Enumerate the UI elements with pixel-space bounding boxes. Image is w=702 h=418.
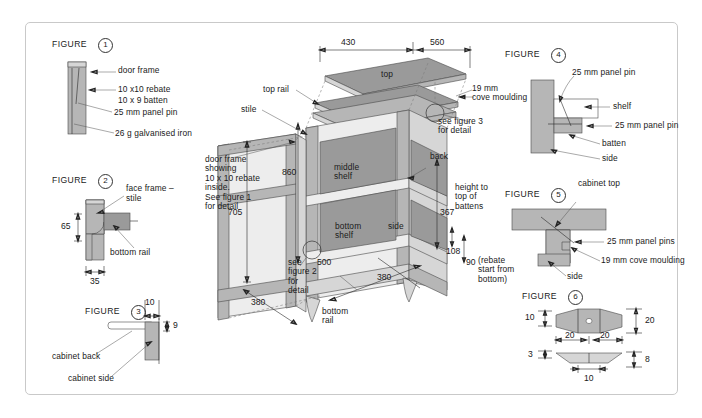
figure-6-dim-3: 3 bbox=[528, 350, 533, 360]
figure-6-dim-20-b: 20 bbox=[600, 331, 610, 341]
figure-6-dim-20-right: 20 bbox=[645, 316, 655, 326]
drawing-sheet: FIGURE 1 door frame 10 x10 rebate 10 x 9… bbox=[0, 0, 702, 418]
figure-6-drawing bbox=[0, 0, 702, 418]
figure-6-dim-10-bottom: 10 bbox=[584, 374, 594, 384]
figure-6-dim-10-left: 10 bbox=[525, 313, 535, 323]
figure-6-dim-8: 8 bbox=[645, 355, 650, 365]
figure-6-dim-20-a: 20 bbox=[565, 331, 575, 341]
